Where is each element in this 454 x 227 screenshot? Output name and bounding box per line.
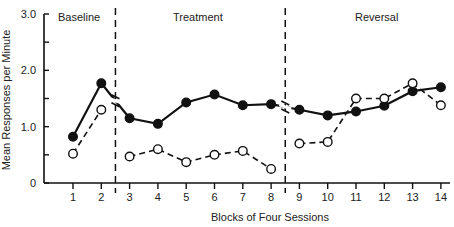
data-point <box>210 151 219 160</box>
phase-label-reversal: Reversal <box>355 11 398 23</box>
data-point <box>239 147 248 156</box>
x-tick-label: 11 <box>350 191 361 203</box>
data-point <box>437 83 446 92</box>
data-point <box>295 139 304 148</box>
data-point <box>267 100 276 109</box>
x-tick-label: 6 <box>211 191 217 203</box>
y-tick-label: 1.0 <box>21 121 36 133</box>
data-point <box>380 94 389 103</box>
y-tick-label: 0 <box>30 177 36 189</box>
data-point <box>125 114 134 123</box>
data-point <box>154 120 163 129</box>
x-tick-label: 4 <box>155 191 161 203</box>
x-tick-label: 7 <box>240 191 246 203</box>
x-tick-label: 1 <box>70 191 76 203</box>
data-point <box>295 105 304 114</box>
x-tick-label: 9 <box>296 191 302 203</box>
data-point <box>323 111 332 120</box>
x-tick-label: 10 <box>322 191 334 203</box>
data-point <box>97 105 106 114</box>
data-point <box>267 165 276 174</box>
line-chart: 01.02.03.01234567891011121314 Baseline T… <box>0 0 454 227</box>
data-point <box>408 79 417 88</box>
y-axis-label: Mean Responses per Minute <box>0 30 12 171</box>
data-point <box>69 149 78 158</box>
x-tick-label: 13 <box>406 191 418 203</box>
data-point <box>69 133 78 142</box>
data-point <box>352 107 361 116</box>
phase-label-baseline: Baseline <box>58 11 100 23</box>
phase-change-lines <box>115 8 285 193</box>
y-tick-label: 2.0 <box>21 64 36 76</box>
x-tick-label: 12 <box>378 191 390 203</box>
data-point <box>182 98 191 107</box>
x-axis-label: Blocks of Four Sessions <box>211 211 329 223</box>
x-tick-label: 2 <box>98 191 104 203</box>
data-point <box>125 152 134 161</box>
data-point <box>437 101 446 110</box>
data-point <box>210 90 219 99</box>
x-tick-label: 5 <box>183 191 189 203</box>
data-point <box>154 145 163 154</box>
x-tick-label: 8 <box>268 191 274 203</box>
y-tick-label: 3.0 <box>21 8 36 20</box>
data-point <box>182 158 191 167</box>
phase-label-treatment: Treatment <box>173 11 223 23</box>
data-point <box>352 94 361 103</box>
x-tick-label: 14 <box>435 191 447 203</box>
data-series <box>69 79 446 173</box>
data-point <box>323 138 332 147</box>
data-point <box>239 101 248 110</box>
x-tick-label: 3 <box>127 191 133 203</box>
data-point <box>97 79 106 88</box>
